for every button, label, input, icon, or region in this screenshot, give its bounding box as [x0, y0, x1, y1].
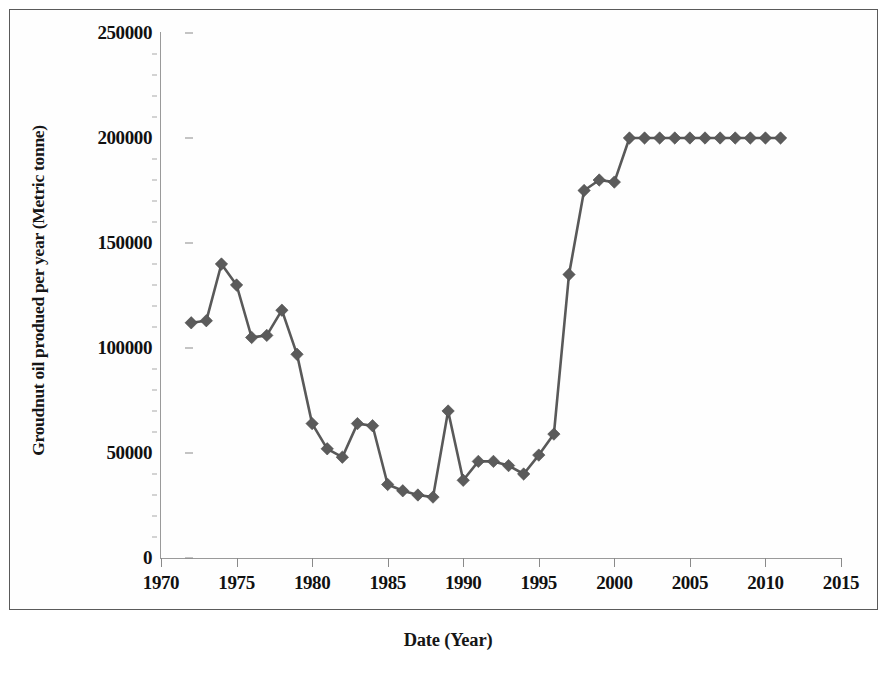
y-axis-minor-tick — [152, 201, 157, 202]
x-axis-tick-label: 2010 — [725, 572, 805, 594]
x-axis-tick-label: 1995 — [499, 572, 579, 594]
x-axis-tick-label: 1975 — [197, 572, 277, 594]
x-axis-tick-label: 1980 — [272, 572, 352, 594]
y-axis-minor-tick — [152, 285, 157, 286]
y-axis-minor-tick — [152, 369, 157, 370]
x-axis-tick-mark — [388, 558, 389, 567]
y-axis-tick-mark — [185, 348, 193, 349]
y-axis-minor-tick — [152, 537, 157, 538]
y-axis-tick-mark — [185, 243, 193, 244]
y-axis-minor-tick — [152, 432, 157, 433]
y-axis-tick-label: 0 — [42, 547, 152, 569]
x-axis-tick-label: 2000 — [574, 572, 654, 594]
y-axis-minor-tick — [152, 495, 157, 496]
x-axis-tick-mark — [614, 558, 615, 567]
x-axis-line — [160, 558, 842, 559]
y-axis-minor-tick — [152, 516, 157, 517]
x-axis-tick-label: 1985 — [348, 572, 428, 594]
x-axis-tick-mark — [161, 558, 162, 567]
y-axis-minor-tick — [152, 96, 157, 97]
y-axis-tick-label: 150000 — [42, 232, 152, 254]
x-axis-tick-mark — [237, 558, 238, 567]
x-axis-tick-mark — [765, 558, 766, 567]
y-axis-minor-tick — [152, 180, 157, 181]
x-axis-tick-mark — [841, 558, 842, 567]
x-axis-tick-mark — [690, 558, 691, 567]
y-axis-line — [160, 32, 161, 559]
chart-figure: Groudnut oil produed per year (Metric to… — [0, 0, 896, 679]
y-axis-tick-mark — [185, 558, 193, 559]
x-axis-tick-mark — [539, 558, 540, 567]
y-axis-minor-tick — [152, 159, 157, 160]
y-axis-tick-label: 50000 — [42, 442, 152, 464]
y-axis-title: Groudnut oil produed per year (Metric to… — [28, 31, 49, 551]
y-axis-minor-tick — [152, 75, 157, 76]
y-axis-minor-tick — [152, 54, 157, 55]
y-axis-minor-tick — [152, 222, 157, 223]
x-axis-tick-mark — [463, 558, 464, 567]
x-axis-tick-label: 2005 — [650, 572, 730, 594]
y-axis-tick-mark — [185, 33, 193, 34]
y-axis-minor-tick — [152, 390, 157, 391]
x-axis-tick-mark — [312, 558, 313, 567]
y-axis-tick-mark — [185, 138, 193, 139]
y-axis-tick-mark — [185, 453, 193, 454]
y-axis-minor-tick — [152, 117, 157, 118]
x-axis-tick-label: 1990 — [423, 572, 503, 594]
y-axis-tick-label: 250000 — [42, 22, 152, 44]
y-axis-tick-label: 100000 — [42, 337, 152, 359]
y-axis-tick-label: 200000 — [42, 127, 152, 149]
y-axis-minor-tick — [152, 327, 157, 328]
y-axis-minor-tick — [152, 264, 157, 265]
y-axis-minor-tick — [152, 411, 157, 412]
y-axis-minor-tick — [152, 474, 157, 475]
x-axis-title: Date (Year) — [0, 630, 896, 651]
x-axis-tick-label: 2015 — [801, 572, 881, 594]
x-axis-tick-label: 1970 — [121, 572, 201, 594]
y-axis-minor-tick — [152, 306, 157, 307]
chart-frame-border — [9, 9, 878, 610]
